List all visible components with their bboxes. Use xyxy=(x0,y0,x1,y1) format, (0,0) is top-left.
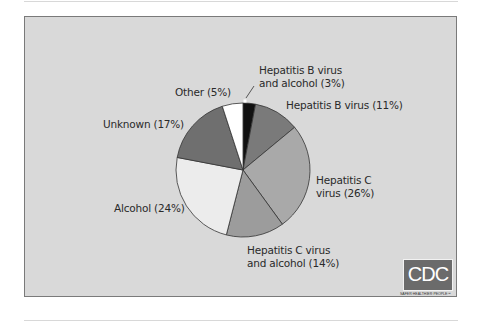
label-line: virus (26%) xyxy=(316,187,374,200)
label-line: Hepatitis B virus xyxy=(259,64,345,77)
label-line: and alcohol (3%) xyxy=(259,77,345,90)
cdc-logo: CDC xyxy=(403,259,453,291)
label-hcv: Hepatitis C virus (26%) xyxy=(316,174,374,200)
label-line: Hepatitis C xyxy=(316,174,374,187)
label-line: Hepatitis C virus xyxy=(247,244,339,257)
slice-marker xyxy=(244,100,247,103)
label-hbv-alcohol: Hepatitis B virus and alcohol (3%) xyxy=(259,64,345,90)
cdc-tagline: SAFER·HEALTHIER·PEOPLE™ xyxy=(400,292,451,296)
label-other: Other (5%) xyxy=(175,86,231,99)
label-line: and alcohol (14%) xyxy=(247,257,339,270)
label-hbv: Hepatitis B virus (11%) xyxy=(286,99,403,112)
label-alcohol: Alcohol (24%) xyxy=(114,202,185,215)
label-unknown: Unknown (17%) xyxy=(103,118,184,131)
leader-line xyxy=(246,86,254,98)
cdc-logo-text: CDC xyxy=(404,263,452,285)
label-hcv-alcohol: Hepatitis C virus and alcohol (14%) xyxy=(247,244,339,270)
